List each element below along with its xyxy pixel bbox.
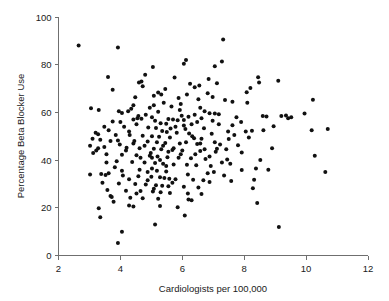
- data-point: [111, 88, 115, 92]
- data-point: [153, 161, 157, 165]
- data-point: [97, 108, 101, 112]
- data-point: [88, 172, 92, 176]
- data-point: [161, 144, 165, 148]
- data-point: [185, 163, 189, 167]
- data-point: [166, 117, 170, 121]
- x-tick-label: 8: [242, 263, 247, 274]
- data-point: [303, 112, 307, 116]
- data-point: [225, 158, 229, 162]
- data-point: [266, 168, 270, 172]
- data-point: [232, 133, 236, 137]
- y-tick-label: 0: [46, 250, 51, 261]
- data-point: [150, 115, 154, 119]
- data-point: [159, 93, 163, 97]
- data-point: [230, 100, 234, 104]
- data-point: [176, 118, 180, 122]
- data-point: [230, 123, 234, 127]
- data-point: [109, 139, 113, 143]
- data-point: [146, 170, 150, 174]
- data-point: [141, 134, 145, 138]
- data-point: [202, 126, 206, 130]
- x-tick-label: 12: [363, 263, 374, 274]
- data-point: [171, 118, 175, 122]
- data-point: [133, 182, 137, 186]
- scatter-plot-figure: 020406080100 24681012 Cardiologists per …: [0, 0, 389, 301]
- data-point: [182, 124, 186, 128]
- data-point: [116, 139, 120, 143]
- data-point: [223, 98, 227, 102]
- data-point: [97, 206, 101, 210]
- data-point: [239, 120, 243, 124]
- data-point: [176, 205, 180, 209]
- data-point: [159, 147, 163, 151]
- data-point: [311, 98, 315, 102]
- data-point: [227, 137, 231, 141]
- data-point: [178, 108, 182, 112]
- data-point: [159, 190, 163, 194]
- data-point: [261, 128, 265, 132]
- data-point: [190, 198, 194, 202]
- data-point: [110, 195, 114, 199]
- data-point: [251, 186, 255, 190]
- data-point: [150, 134, 154, 138]
- data-point: [160, 129, 164, 133]
- data-point: [134, 191, 138, 195]
- data-point: [165, 155, 169, 159]
- data-point: [279, 114, 283, 118]
- data-point: [131, 205, 135, 209]
- x-tick-labels: 24681012: [56, 263, 373, 274]
- data-point: [113, 165, 117, 169]
- data-point: [118, 120, 122, 124]
- data-point: [215, 81, 219, 85]
- data-point: [250, 129, 254, 133]
- data-point: [240, 168, 244, 172]
- data-point: [254, 166, 258, 170]
- data-point: [203, 109, 207, 113]
- data-point: [162, 101, 166, 105]
- data-point: [148, 106, 152, 110]
- data-point: [156, 197, 160, 201]
- data-point: [175, 131, 179, 135]
- data-point: [199, 116, 203, 120]
- data-point: [184, 58, 188, 62]
- data-point: [106, 75, 110, 79]
- data-point: [150, 166, 154, 170]
- data-point: [124, 189, 128, 193]
- x-tick-label: 2: [56, 263, 61, 274]
- data-point: [195, 120, 199, 124]
- data-point: [183, 213, 187, 217]
- data-point: [187, 131, 191, 135]
- data-point: [213, 112, 217, 116]
- data-point: [236, 143, 240, 147]
- data-point: [149, 151, 153, 155]
- data-point: [134, 153, 138, 157]
- data-point: [116, 241, 120, 245]
- data-point: [247, 135, 251, 139]
- data-point: [127, 177, 131, 181]
- data-point: [129, 107, 133, 111]
- x-tick-label: 6: [180, 263, 185, 274]
- y-tick-label: 60: [41, 107, 52, 118]
- data-point: [177, 156, 181, 160]
- data-point: [156, 155, 160, 159]
- data-point: [244, 129, 248, 133]
- data-point: [169, 104, 173, 108]
- data-point: [173, 76, 177, 80]
- data-point: [186, 115, 190, 119]
- data-point: [217, 112, 221, 116]
- data-point: [146, 140, 150, 144]
- axes-layer: [55, 17, 369, 260]
- data-point: [164, 170, 168, 174]
- data-point: [218, 143, 222, 147]
- data-point: [139, 117, 143, 121]
- data-point: [168, 135, 172, 139]
- data-point: [256, 75, 260, 79]
- data-point: [156, 110, 160, 114]
- data-point: [139, 189, 143, 193]
- data-point: [261, 114, 265, 118]
- data-point: [105, 188, 109, 192]
- data-point: [151, 65, 155, 69]
- data-point: [154, 183, 158, 187]
- data-point: [88, 144, 92, 148]
- data-point: [208, 180, 212, 184]
